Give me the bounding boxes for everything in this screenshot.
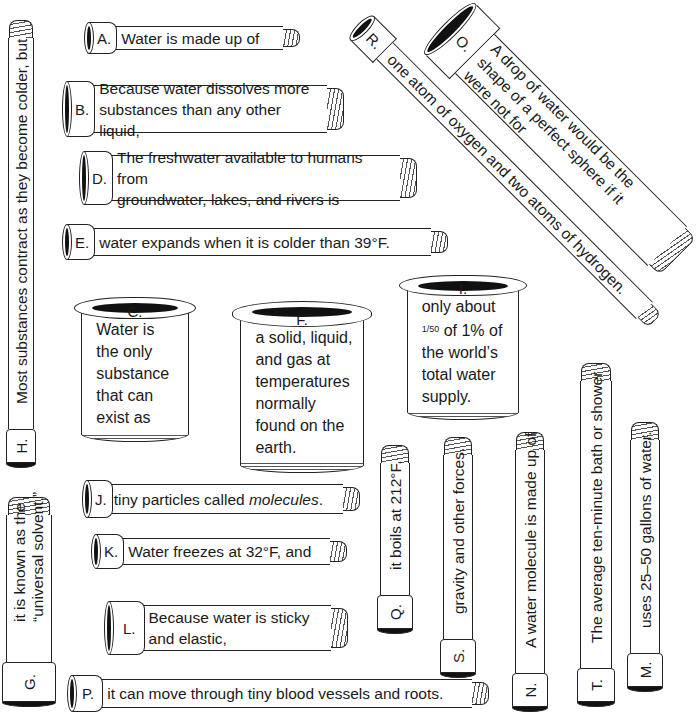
pipe-g[interactable]: it is known as the “universal solvent.” …	[2, 497, 56, 707]
pipe-c-label: C.	[75, 303, 195, 320]
pipe-p-text: it can move through tiny blood vessels a…	[100, 679, 472, 708]
pipe-h-label: H.	[13, 439, 30, 454]
pipe-body: tiny particles called molecules.	[110, 484, 343, 514]
pipe-c-line: Water is	[96, 319, 179, 341]
threads-icon	[472, 682, 489, 705]
pipe-d-line1: The freshwater available to humans from	[117, 147, 394, 189]
pipe-collar: N.	[512, 673, 548, 707]
pipe-b-line2: substances than any other liquid,	[99, 99, 321, 141]
pipe-k[interactable]: K. Water freezes at 32°F, and	[91, 534, 347, 569]
pipe-collar: G.	[2, 662, 56, 702]
threads-icon	[343, 487, 360, 511]
pipe-opening-icon	[62, 224, 72, 260]
pipe-f-line: a solid, liquid,	[255, 327, 354, 349]
threads-icon	[400, 158, 417, 198]
pipe-s-text: gravity and other forces.	[448, 448, 467, 614]
pipe-i-line: the world’s	[422, 342, 511, 364]
pipe-body: A water molecule is made up of	[515, 450, 545, 673]
pipe-n-label: N.	[522, 683, 539, 698]
pipe-body: The freshwater available to humans from …	[110, 155, 400, 201]
pipe-q[interactable]: it boils at 212°F. Q.	[377, 445, 413, 634]
cup-rim: I.	[399, 275, 527, 296]
cup-rim: F.	[232, 301, 372, 327]
pipe-g-text: it is known as the “universal solvent.”	[11, 492, 47, 622]
pipe-body: Because water dissolves more substances …	[92, 85, 327, 133]
pipe-c[interactable]: C. Water is the only substance that can …	[74, 297, 196, 442]
pipe-m-label: M.	[637, 662, 654, 679]
pipe-body: The average ten-minute bath or shower	[580, 381, 612, 668]
pipe-l-label: L.	[109, 601, 145, 655]
threads-icon	[407, 412, 520, 420]
pipe-i-label: I.	[400, 280, 526, 297]
pipe-t-label: T.	[588, 679, 605, 691]
pipe-body: it boils at 212°F.	[380, 463, 410, 595]
pipe-i-line: total water	[422, 364, 511, 386]
pipe-h-text: Most substances contract as they become …	[12, 39, 31, 404]
pipe-n[interactable]: A water molecule is made up of N.	[512, 432, 548, 712]
cup-body: Water is the only substance that can exi…	[81, 309, 188, 433]
pipe-p[interactable]: P. it can move through tiny blood vessel…	[67, 675, 489, 712]
pipe-f-line: temperatures	[255, 371, 354, 393]
pipe-c-line: the only	[96, 341, 179, 363]
pipe-e[interactable]: E. water expands when it is colder than …	[62, 224, 448, 260]
pipe-j-period: .	[319, 489, 323, 510]
pipe-k-text: Water freezes at 32°F, and	[121, 538, 330, 565]
pipe-j[interactable]: J. tiny particles called molecules.	[82, 480, 360, 518]
pipe-m[interactable]: uses 25–50 gallons of water. M.	[627, 422, 663, 692]
pipe-i-line-rest: of 1% of	[439, 322, 502, 339]
pipe-collar: T.	[577, 668, 615, 702]
pipe-body: it is known as the “universal solvent.”	[6, 515, 51, 662]
pipe-f-line: and gas at	[255, 349, 354, 371]
pipe-body: Most substances contract as they become …	[8, 38, 33, 429]
pipe-t-text: The average ten-minute bath or shower	[587, 372, 606, 643]
pipe-a[interactable]: A. Water is made up of	[84, 22, 300, 54]
pipe-t[interactable]: The average ten-minute bath or shower T.	[577, 363, 615, 707]
pipe-body: Because water is sticky and elastic,	[142, 605, 331, 651]
pipe-opening-icon	[104, 601, 114, 655]
pipe-f-line: earth.	[255, 437, 354, 459]
pipe-f-line: found on the	[255, 415, 354, 437]
pipe-g-label: G.	[21, 674, 38, 690]
cup-body: a solid, liquid, and gas at temperatures…	[240, 317, 363, 463]
fraction: 1/50	[422, 324, 440, 334]
threads-icon	[283, 29, 300, 47]
pipe-i-line: only about	[422, 296, 511, 318]
pipe-s-label: S.	[450, 649, 467, 663]
pipe-l-line1: Because water is sticky	[149, 607, 310, 628]
pipe-a-text: Water is made up of	[114, 26, 283, 50]
pipe-f-label: F.	[233, 311, 371, 328]
cup-body: only about 1/50 of 1% of the world’s tot…	[407, 286, 520, 412]
pipe-l[interactable]: L. Because water is sticky and elastic,	[104, 601, 348, 655]
threads-icon	[331, 608, 348, 648]
pipe-collar: S.	[440, 639, 476, 673]
pipe-i-line: supply.	[422, 386, 511, 408]
pipe-opening-icon	[91, 534, 101, 569]
pipe-d-line2: groundwater, lakes, and rivers is	[117, 189, 339, 210]
pipe-opening-icon	[62, 81, 72, 137]
pipe-s[interactable]: gravity and other forces. S.	[440, 437, 476, 678]
pipe-body: uses 25–50 gallons of water.	[630, 440, 660, 653]
pipe-l-line2: and elastic,	[149, 628, 227, 649]
pipe-g-line1: it is known as the	[11, 492, 29, 622]
pipe-e-text: water expands when it is colder than 39°…	[92, 228, 431, 256]
pipe-opening-icon	[67, 675, 77, 712]
pipe-j-text: tiny particles called	[114, 489, 249, 510]
pipe-n-text: A water molecule is made up of	[520, 433, 539, 648]
cup-rim: C.	[74, 297, 196, 319]
pipe-h[interactable]: Most substances contract as they become …	[6, 20, 36, 468]
pipe-body: gravity and other forces.	[443, 455, 473, 639]
pipe-f[interactable]: F. a solid, liquid, and gas at temperatu…	[232, 301, 372, 473]
threads-icon	[81, 433, 188, 442]
pipe-opening-icon	[82, 480, 92, 518]
pipe-opening-icon	[79, 151, 89, 205]
pipe-d[interactable]: D. The freshwater available to humans fr…	[79, 151, 417, 205]
threads-icon	[9, 20, 32, 38]
pipe-b[interactable]: B. Because water dissolves more substanc…	[62, 81, 344, 137]
pipe-g-line2: “universal solvent.”	[29, 492, 47, 622]
pipe-c-line: substance	[96, 363, 179, 385]
pipe-j-emphasis: molecules	[249, 489, 319, 510]
pipe-b-line1: Because water dissolves more	[99, 78, 309, 99]
pipe-q-label: Q.	[387, 604, 404, 620]
pipe-i[interactable]: I. only about 1/50 of 1% of the world’s …	[399, 275, 527, 420]
pipe-f-line: normally	[255, 393, 354, 415]
